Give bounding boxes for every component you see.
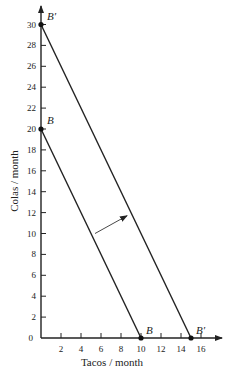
- axes: [41, 6, 222, 338]
- origin-label: 0: [29, 333, 34, 343]
- x-tick-label: 4: [79, 344, 84, 354]
- y-tick-label: 14: [27, 187, 37, 197]
- y-tick-label: 26: [27, 61, 37, 71]
- y-tick-label: 12: [27, 208, 36, 218]
- point-label: B′: [47, 10, 57, 22]
- intercept-point: [188, 335, 193, 340]
- budget-lines: BBB′B′: [38, 10, 205, 341]
- x-axis-label: Tacos / month: [81, 356, 144, 368]
- x-tick-label: 10: [137, 344, 147, 354]
- ticks: 024681012141618202224262830246810121416: [27, 20, 206, 355]
- annotations: [95, 216, 127, 234]
- y-tick-label: 8: [32, 249, 37, 259]
- budget-line-b-prime: [41, 25, 191, 339]
- y-tick-label: 20: [27, 124, 37, 134]
- y-axis-label: Colas / month: [8, 150, 20, 212]
- y-tick-label: 16: [27, 166, 37, 176]
- budget-line-b: [41, 129, 141, 338]
- y-tick-label: 30: [27, 20, 37, 30]
- y-tick-label: 18: [27, 145, 37, 155]
- intercept-point: [138, 335, 143, 340]
- intercept-point: [38, 22, 43, 27]
- budget-line-chart: 024681012141618202224262830246810121416 …: [0, 0, 228, 377]
- x-tick-label: 16: [197, 344, 207, 354]
- shift-arrow: [95, 216, 127, 234]
- y-tick-label: 4: [32, 291, 37, 301]
- x-tick-label: 12: [157, 344, 166, 354]
- y-tick-label: 6: [32, 270, 37, 280]
- y-tick-label: 28: [27, 40, 37, 50]
- x-tick-label: 14: [177, 344, 187, 354]
- x-tick-label: 8: [119, 344, 124, 354]
- point-label: B: [47, 114, 54, 126]
- y-tick-label: 10: [27, 229, 37, 239]
- point-label: B′: [196, 324, 206, 336]
- x-tick-label: 2: [59, 344, 64, 354]
- intercept-point: [38, 126, 43, 131]
- point-label: B: [146, 324, 153, 336]
- y-tick-label: 24: [27, 82, 37, 92]
- y-tick-label: 2: [32, 312, 37, 322]
- y-tick-label: 22: [27, 103, 36, 113]
- x-tick-label: 6: [99, 344, 104, 354]
